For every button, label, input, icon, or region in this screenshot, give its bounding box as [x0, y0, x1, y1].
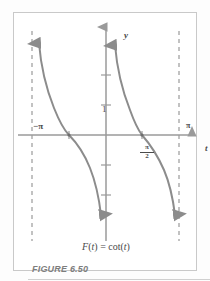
pi-over-2-numerator: π — [140, 144, 154, 151]
equation-close-paren-2: ) — [127, 241, 130, 252]
figure-caption: FIGURE 6.50 — [32, 264, 88, 274]
pi-over-2-denominator: 2 — [140, 153, 154, 160]
y-axis-label: y — [124, 31, 128, 40]
equation-close-paren-1: ) — [94, 241, 97, 252]
figure-page: y t 1 −π π π 2 F(t) = cot(t) FIGURE 6.50 — [0, 0, 210, 281]
curve-branch-left — [39, 43, 101, 215]
y-tick-label-one: 1 — [102, 105, 107, 114]
equation-equals-sign: = — [100, 241, 106, 252]
x-tick-label-pi-over-2: π 2 — [140, 144, 154, 161]
zero-crossing-right — [140, 133, 143, 136]
t-axis-label: t — [205, 144, 208, 153]
figure-frame: y t 1 −π π π 2 F(t) = cot(t) FIGURE 6.50 — [13, 12, 197, 271]
equation-cot: cot — [108, 241, 120, 252]
function-equation: F(t) = cot(t) — [14, 241, 198, 252]
x-tick-label-pi: π — [186, 122, 190, 130]
cotangent-plot — [14, 13, 198, 272]
curve-branch-right — [115, 45, 175, 215]
caption-divider — [28, 279, 210, 280]
zero-crossing-left — [67, 133, 70, 136]
x-tick-label-negative-pi: −π — [33, 122, 43, 131]
